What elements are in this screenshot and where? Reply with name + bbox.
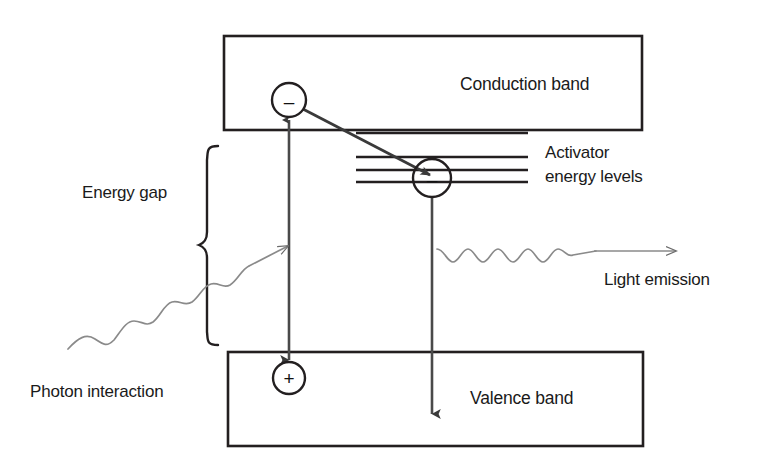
activator-energy-level-lines: [356, 133, 528, 182]
energy-gap-label: Energy gap: [82, 182, 167, 204]
incoming-photon-arrow: [249, 246, 288, 266]
electron-activator-sign: –: [422, 170, 442, 189]
band-diagram-canvas: Conduction band Valence band Activator e…: [0, 0, 780, 476]
activator-label-line2: energy levels: [545, 166, 643, 188]
photon-interaction-label: Photon interaction: [30, 381, 163, 403]
diagram-vector-layer: [0, 0, 780, 476]
conduction-band-label: Conduction band: [460, 73, 589, 96]
valence-band-label: Valence band: [470, 387, 573, 410]
incoming-photon-wave: [68, 266, 249, 349]
energy-gap-brace: [199, 146, 218, 345]
hole-valence-sign: +: [279, 369, 299, 388]
light-emission-wave: [437, 249, 596, 262]
light-emission-label: Light emission: [604, 269, 710, 291]
activator-label-line1: Activator: [545, 142, 609, 164]
electron-conduction-sign: –: [279, 92, 299, 111]
